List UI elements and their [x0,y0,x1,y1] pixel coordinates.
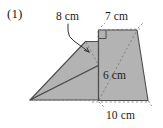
guide-top-left-tick [101,23,105,27]
label-base-edge: 10 cm [106,110,135,122]
label-slant-height: 8 cm [56,11,79,23]
item-number-label: (1) [7,7,22,20]
guide-top-right-tick [138,23,143,28]
right-trapezoid [99,30,149,101]
label-vertical-height: 6 cm [103,70,126,82]
geometry-figure: (1) 8 cm 7 cm 6 cm 10 cm [0,0,163,128]
guide-base-left-tick [99,102,104,107]
figure-drawing [0,0,163,128]
label-top-edge: 7 cm [105,11,128,23]
